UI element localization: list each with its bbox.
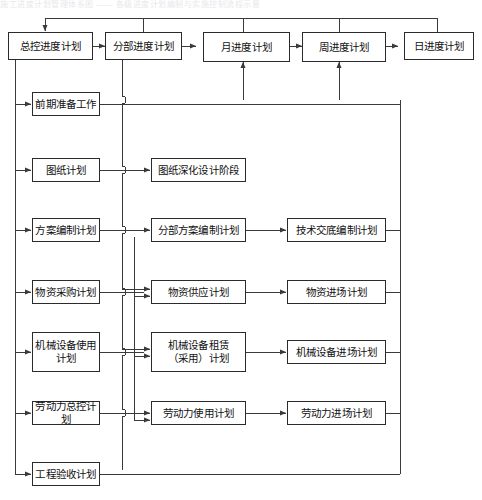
- node-material-arrival-plan[interactable]: 物资进场计划: [287, 280, 386, 304]
- node-material-supply-plan[interactable]: 物资供应计划: [151, 280, 246, 304]
- flowchart-canvas: 施工进度计划管理体系图 —— 各级进度计划编制与实施控制流程示意: [0, 0, 482, 500]
- node-tech-disclosure-plan[interactable]: 技术交底编制计划: [287, 218, 386, 242]
- node-month-schedule[interactable]: 月进度计划: [203, 32, 290, 62]
- node-labor-use-plan[interactable]: 劳动力使用计划: [151, 401, 246, 425]
- node-week-schedule[interactable]: 周进度计划: [302, 32, 386, 62]
- node-section-schedule[interactable]: 分部进度计划: [105, 32, 182, 60]
- node-labor-arrival-plan[interactable]: 劳动力进场计划: [287, 401, 386, 425]
- node-labor-master-plan[interactable]: 劳动力总控计划: [32, 401, 100, 425]
- node-master-schedule[interactable]: 总控进度计划: [8, 32, 93, 60]
- node-drawing-deepening-stage[interactable]: 图纸深化设计阶段: [151, 158, 246, 182]
- node-drawing-plan[interactable]: 图纸计划: [32, 158, 100, 182]
- node-prep-work[interactable]: 前期准备工作: [32, 92, 100, 116]
- node-equipment-arrival-plan[interactable]: 机械设备进场计划: [287, 340, 386, 364]
- node-material-purchase-plan[interactable]: 物资采购计划: [32, 280, 100, 304]
- node-section-scheme-plan[interactable]: 分部方案编制计划: [151, 218, 246, 242]
- node-day-schedule[interactable]: 日进度计划: [404, 32, 474, 60]
- node-equipment-lease-plan[interactable]: 机械设备租赁 （采用）计划: [151, 332, 246, 372]
- node-equipment-use-plan[interactable]: 机械设备使用 计划: [32, 332, 100, 372]
- node-scheme-plan[interactable]: 方案编制计划: [32, 218, 100, 242]
- node-acceptance-plan[interactable]: 工程验收计划: [32, 462, 100, 486]
